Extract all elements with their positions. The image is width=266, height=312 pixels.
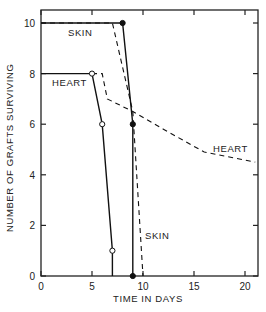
y-tick-label: 6: [29, 119, 35, 130]
open-circle-marker: [110, 248, 115, 253]
open-circle-marker: [89, 71, 94, 76]
series-line-heart-solid: [41, 74, 112, 276]
y-tick-label: 2: [29, 220, 35, 231]
y-tick-label: 10: [24, 18, 36, 29]
graft-survival-chart: 051015200246810 SKIN HEART HEART SKIN TI…: [0, 0, 266, 312]
annotation-heart-right: HEART: [213, 143, 248, 154]
annotation-heart-left: HEART: [52, 77, 87, 88]
x-tick-label: 5: [89, 281, 95, 292]
open-circle-marker: [100, 122, 105, 127]
series-line-skin-solid: [41, 23, 133, 276]
filled-circle-marker: [130, 122, 135, 127]
x-tick-label: 15: [188, 281, 200, 292]
x-axis-label: TIME IN DAYS: [113, 293, 183, 304]
markers-group: [89, 20, 135, 278]
filled-circle-marker: [120, 20, 125, 25]
y-tick-label: 8: [29, 69, 35, 80]
y-axis-label: NUMBER OF GRAFTS SURVIVING: [4, 64, 15, 233]
y-tick-label: 4: [29, 170, 35, 181]
y-tick-label: 0: [29, 271, 35, 282]
annotation-skin-top: SKIN: [68, 27, 93, 38]
x-tick-label: 0: [38, 281, 44, 292]
series-line-skin-dashed: [41, 23, 143, 276]
x-tick-label: 20: [239, 281, 251, 292]
annotation-skin-bottom: SKIN: [145, 230, 170, 241]
filled-circle-marker: [130, 273, 135, 278]
x-tick-label: 10: [137, 281, 149, 292]
